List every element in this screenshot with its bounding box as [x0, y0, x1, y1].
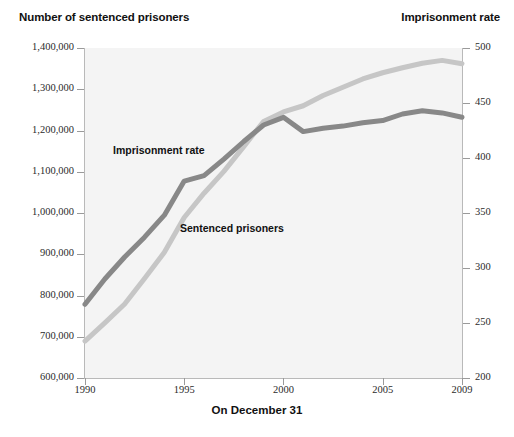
series-label-sentenced-prisoners: Sentenced prisoners	[180, 222, 284, 234]
chart-figure: Number of sentenced prisoners Imprisonme…	[0, 0, 514, 437]
series-line-imprisonment-rate	[85, 111, 462, 305]
series-lines	[0, 0, 514, 437]
series-line-sentenced-prisoners	[85, 60, 462, 341]
series-label-imprisonment-rate: Imprisonment rate	[113, 144, 205, 156]
x-axis-title: On December 31	[0, 404, 514, 416]
